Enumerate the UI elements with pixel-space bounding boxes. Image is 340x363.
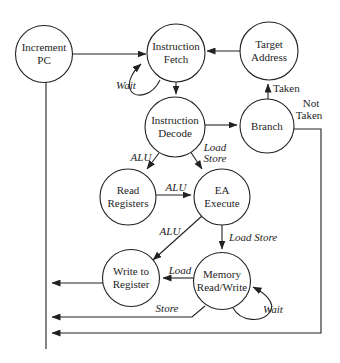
label-ea-memory-load-store: Load Store <box>228 231 277 243</box>
node-instruction-fetch-label-1: Instruction <box>152 40 200 52</box>
label-fetch-wait: Wait <box>116 79 137 91</box>
label-decode-alu: ALU <box>130 151 153 163</box>
node-read-registers-label-1: Read <box>117 184 140 196</box>
edge-decode-to-ea-loadstore <box>190 151 202 169</box>
label-readreg-ea-alu: ALU <box>165 181 188 193</box>
node-ea-execute: EA Execute <box>194 169 250 225</box>
node-write-to-register: Write to Register <box>103 250 160 307</box>
node-write-to-register-label-1: Write to <box>113 265 149 277</box>
node-instruction-fetch: Instruction Fetch <box>147 24 205 82</box>
node-ea-execute-label-1: EA <box>215 184 230 196</box>
label-memory-wait: Wait <box>263 303 284 315</box>
label-decode-store: Store <box>204 152 227 164</box>
node-read-registers: Read Registers <box>100 169 156 225</box>
node-instruction-decode: Instruction Decode <box>145 97 205 157</box>
node-increment-pc: Increment PC <box>16 26 73 83</box>
node-instruction-decode-label-2: Decode <box>158 127 192 139</box>
node-branch: Branch <box>240 99 294 153</box>
edge-memory-store-return <box>52 306 205 317</box>
label-memory-store: Store <box>156 302 179 314</box>
node-instruction-fetch-label-2: Fetch <box>164 53 189 65</box>
state-diagram-canvas: Increment PC Instruction Fetch Target Ad… <box>0 0 340 363</box>
node-instruction-decode-label-1: Instruction <box>151 114 199 126</box>
node-target-address-label-2: Address <box>251 51 287 63</box>
node-increment-pc-label-2: PC <box>37 54 50 66</box>
label-memory-write-load: Load <box>168 264 192 276</box>
edge-ea-to-write-alu <box>153 216 202 260</box>
node-memory-read-write-label-1: Memory <box>203 268 241 280</box>
node-read-registers-label-2: Registers <box>108 197 149 209</box>
node-memory-read-write-label-2: Read/Write <box>197 281 247 293</box>
node-increment-pc-label-1: Increment <box>22 41 67 53</box>
node-target-address-label-1: Target <box>255 38 283 50</box>
state-diagram: Increment PC Instruction Fetch Target Ad… <box>0 0 340 363</box>
label-taken: Taken <box>273 82 300 94</box>
node-branch-label-1: Branch <box>251 120 283 132</box>
node-target-address: Target Address <box>240 22 298 80</box>
label-ea-write-alu: ALU <box>159 225 182 237</box>
node-ea-execute-label-2: Execute <box>204 197 240 209</box>
label-not-taken-1: Not <box>303 97 320 109</box>
label-not-taken-2: Taken <box>296 109 323 121</box>
node-write-to-register-label-2: Register <box>113 278 150 290</box>
node-memory-read-write: Memory Read/Write <box>194 253 251 310</box>
